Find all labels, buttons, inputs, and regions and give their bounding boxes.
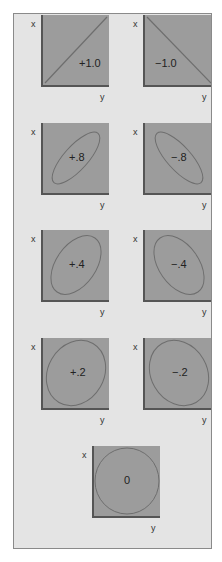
y-axis-label: y bbox=[100, 92, 105, 102]
coefficient-label: +.2 bbox=[70, 366, 86, 378]
coefficient-label: −.4 bbox=[171, 258, 187, 270]
x-axis-label: x bbox=[133, 342, 138, 352]
coefficient-label: −.2 bbox=[172, 366, 188, 378]
panel-r-minus-0-8: x −.8 y bbox=[129, 122, 212, 222]
coefficient-label: +1.0 bbox=[79, 57, 101, 69]
x-axis-label: x bbox=[133, 127, 138, 137]
y-axis-label: y bbox=[202, 200, 207, 210]
coefficient-label: −.8 bbox=[171, 151, 187, 163]
coefficient-label: −1.0 bbox=[155, 57, 177, 69]
plot-area: +1.0 bbox=[41, 15, 109, 87]
plot-area: −1.0 bbox=[143, 15, 212, 87]
plot-area: 0 bbox=[92, 446, 160, 518]
plot-area: +.2 bbox=[41, 338, 109, 410]
coefficient-label: +.4 bbox=[69, 258, 85, 270]
coefficient-label: 0 bbox=[124, 474, 130, 486]
y-axis-label: y bbox=[202, 92, 207, 102]
panel-r-minus-0-2: x −.2 y bbox=[129, 337, 212, 437]
y-axis-label: y bbox=[100, 307, 105, 317]
x-axis-label: x bbox=[133, 19, 138, 29]
panel-r-minus-1: x −1.0 y bbox=[129, 14, 212, 114]
x-axis-label: x bbox=[31, 342, 36, 352]
panel-r-plus-0-2: x +.2 y bbox=[27, 337, 117, 437]
y-axis-label: y bbox=[151, 523, 156, 533]
y-axis-label: y bbox=[100, 415, 105, 425]
plot-area: −.2 bbox=[143, 338, 212, 410]
coefficient-label: +.8 bbox=[69, 151, 85, 163]
panel-r-plus-0-4: x +.4 y bbox=[27, 229, 117, 329]
panel-r-plus-0-8: x +.8 y bbox=[27, 122, 117, 222]
y-axis-label: y bbox=[100, 200, 105, 210]
plot-area: +.8 bbox=[41, 123, 109, 195]
x-axis-label: x bbox=[31, 127, 36, 137]
plot-area: −.8 bbox=[143, 123, 212, 195]
x-axis-label: x bbox=[82, 450, 87, 460]
x-axis-label: x bbox=[31, 234, 36, 244]
x-axis-label: x bbox=[31, 19, 36, 29]
panel-r-plus-1: x +1.0 y bbox=[27, 14, 117, 114]
panel-r-zero: x 0 y bbox=[78, 445, 168, 545]
y-axis-label: y bbox=[202, 415, 207, 425]
panel-r-minus-0-4: x −.4 y bbox=[129, 229, 212, 329]
plot-area: +.4 bbox=[41, 230, 109, 302]
figure-frame: x +1.0 y x −1.0 y x +.8 y x bbox=[13, 13, 212, 549]
plot-area: −.4 bbox=[143, 230, 212, 302]
correlation-line-positive bbox=[43, 15, 109, 85]
y-axis-label: y bbox=[202, 307, 207, 317]
x-axis-label: x bbox=[133, 234, 138, 244]
correlation-line-negative bbox=[145, 15, 212, 85]
